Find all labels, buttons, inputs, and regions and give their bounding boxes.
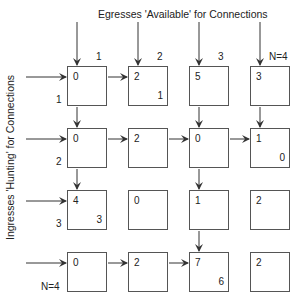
cell-value: 0 xyxy=(73,258,79,268)
cell-r4-c1: 0 xyxy=(67,252,107,292)
cell-value: 7 xyxy=(195,258,201,268)
cell-r4-c3: 7 6 xyxy=(189,252,229,292)
column-label-4: N=4 xyxy=(269,52,288,62)
cell-next-value: 3 xyxy=(96,215,102,225)
cell-value: 2 xyxy=(134,258,140,268)
cell-value: 2 xyxy=(256,258,262,268)
cell-value: 2 xyxy=(134,134,140,144)
connection-matrix-diagram: Egresses 'Available' for Connections Ing… xyxy=(0,0,302,304)
cell-r3-c3: 1 xyxy=(189,190,229,230)
column-label-3: 3 xyxy=(218,52,224,62)
cell-r3-c2: 0 xyxy=(128,190,168,230)
cell-r2-c4: 1 0 xyxy=(250,128,290,168)
cell-r2-c1: 0 xyxy=(67,128,107,168)
cell-value: 5 xyxy=(195,72,201,82)
cell-r2-c3: 0 xyxy=(189,128,229,168)
cell-r1-c2: 2 1 xyxy=(128,66,168,106)
cell-r3-c1: 4 3 xyxy=(67,190,107,230)
cell-r1-c3: 5 xyxy=(189,66,229,106)
row-label-4: N=4 xyxy=(41,282,60,292)
cell-value: 2 xyxy=(134,72,140,82)
cell-value: 0 xyxy=(73,72,79,82)
cell-value: 1 xyxy=(195,196,201,206)
cell-r3-c4: 2 xyxy=(250,190,290,230)
column-label-2: 2 xyxy=(157,52,163,62)
cell-next-value: 6 xyxy=(218,277,224,287)
cell-r4-c2: 2 xyxy=(128,252,168,292)
cell-value: 0 xyxy=(195,134,201,144)
cell-value: 3 xyxy=(256,72,262,82)
cell-value: 1 xyxy=(256,134,262,144)
cell-r4-c4: 2 xyxy=(250,252,290,292)
row-label-2: 2 xyxy=(56,157,62,167)
cell-value: 2 xyxy=(256,196,262,206)
column-label-1: 1 xyxy=(96,52,102,62)
cell-value: 4 xyxy=(73,196,79,206)
cell-next-value: 0 xyxy=(279,153,285,163)
row-label-3: 3 xyxy=(56,219,62,229)
row-label-1: 1 xyxy=(56,95,62,105)
cell-r1-c1: 0 xyxy=(67,66,107,106)
cell-value: 0 xyxy=(73,134,79,144)
cell-value: 0 xyxy=(134,196,140,206)
cell-r1-c4: 3 xyxy=(250,66,290,106)
cell-next-value: 1 xyxy=(157,91,163,101)
cell-r2-c2: 2 xyxy=(128,128,168,168)
